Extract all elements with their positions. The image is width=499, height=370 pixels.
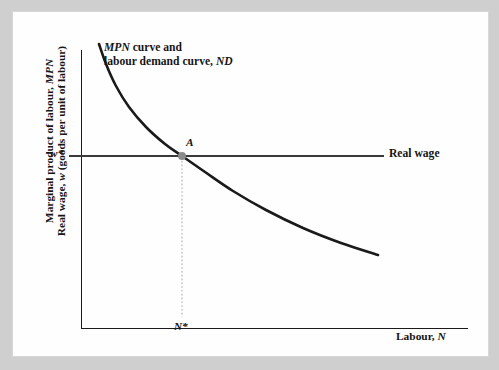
x-axis-label-plain: Labour, xyxy=(396,330,437,342)
curve-caption-line2: labour demand curve, ND xyxy=(104,55,233,69)
curve-caption-line1-italic: MPN xyxy=(104,41,130,54)
curve-caption-line1: MPN curve and xyxy=(104,41,233,55)
y-axis-label-line2-a: Real wage, xyxy=(55,181,67,236)
x-axis-label-italic: N xyxy=(437,330,445,342)
y-axis-label-line2: Real wage, w (goods per unit of labour) xyxy=(55,21,67,261)
curve-caption-annotation: MPN curve and labour demand curve, ND xyxy=(104,41,233,68)
y-axis-label-line1-italic: MPN xyxy=(43,59,55,84)
figure-card: Marginal product of labour, MPN Real wag… xyxy=(13,12,488,356)
curve-caption-line1-plain: curve and xyxy=(130,41,182,54)
y-axis-label-line1: Marginal product of labour, MPN xyxy=(43,21,55,261)
figure-root: Marginal product of labour, MPN Real wag… xyxy=(0,0,499,370)
y-axis-tick-w-star: w* xyxy=(50,147,63,160)
y-axis-label-line2-italic: w xyxy=(55,173,67,181)
curve-caption-line2-italic: ND xyxy=(216,55,233,68)
real-wage-line-label: Real wage xyxy=(389,147,440,161)
curve-caption-line2-plain: labour demand curve, xyxy=(104,55,216,68)
x-axis-tick-n-star: N* xyxy=(174,320,188,333)
x-axis-label: Labour, N xyxy=(396,330,446,343)
plot-axes-frame xyxy=(81,50,468,329)
equilibrium-point-label-a: A xyxy=(186,136,194,149)
y-axis-label: Marginal product of labour, MPN Real wag… xyxy=(43,21,67,261)
